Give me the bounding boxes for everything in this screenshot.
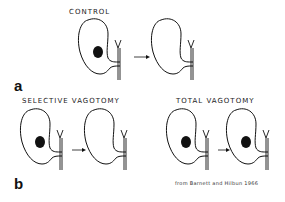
control-after-stomach xyxy=(151,19,194,80)
selective-before-stomach xyxy=(20,109,63,170)
panel-b-label: b xyxy=(14,175,23,192)
ulcer-icon xyxy=(93,46,103,58)
total-vagotomy-label: TOTAL VAGOTOMY xyxy=(176,97,254,105)
ulcer-icon xyxy=(181,136,191,148)
source-credit: from Barnett and Hilbun 1966 xyxy=(175,180,258,186)
arrow-icon xyxy=(218,148,230,152)
ulcer-icon xyxy=(241,136,251,148)
arrow-icon xyxy=(134,55,150,59)
arrow-icon xyxy=(72,148,86,152)
selective-after-stomach xyxy=(84,109,127,170)
control-before-stomach xyxy=(78,19,121,80)
ulcer-icon xyxy=(35,136,45,148)
control-label: CONTROL xyxy=(69,8,110,16)
panel-a-label: a xyxy=(14,77,22,94)
total-after-stomach xyxy=(226,109,269,170)
selective-vagotomy-label: SELECTIVE VAGOTOMY xyxy=(22,97,120,105)
total-before-stomach xyxy=(166,109,209,170)
